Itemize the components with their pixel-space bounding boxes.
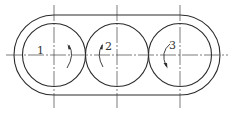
roller-3-label: 3 <box>169 39 176 52</box>
roller-1-label: 1 <box>37 44 44 57</box>
rotation-arrow-1-icon <box>67 44 72 68</box>
three-roller-diagram: 1 2 3 <box>0 0 239 120</box>
roller-2-label: 2 <box>105 40 112 53</box>
